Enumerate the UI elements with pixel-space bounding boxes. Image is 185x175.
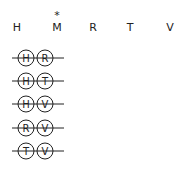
pair-left: T [22,146,30,157]
pair-row: H R [12,50,64,66]
pair-row: H V [12,96,64,112]
pair-right: R [42,53,49,64]
pairs-diagram: H M * R T V H R H T H V R V T V [0,0,185,175]
asterisk-marker: * [54,9,60,22]
header-letter: T [126,21,134,34]
pair-row: H T [12,73,64,89]
header-letter: R [89,21,97,34]
header-row: H M * R T V [13,9,174,34]
pair-left: H [22,76,30,87]
pair-left: R [23,123,30,134]
pair-left: H [22,99,30,110]
pair-row: R V [12,120,64,136]
pair-left: H [22,53,30,64]
header-letter: M [52,21,62,34]
pair-row: T V [12,143,64,159]
pair-right: T [41,76,49,87]
pair-right: V [42,123,49,134]
header-letter: H [13,21,21,34]
pair-right: V [42,146,49,157]
header-letter: V [166,21,174,34]
pair-right: V [42,99,49,110]
